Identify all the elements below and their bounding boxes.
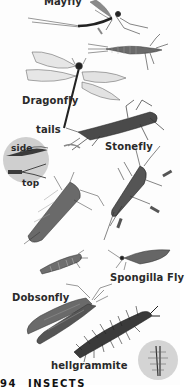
label-top: top [22,178,39,188]
label-tails: tails [36,124,61,135]
spongilla-fly-illustration [108,250,170,270]
label-spongilla-fly: Spongilla Fly [110,272,184,283]
page-number: 94 [0,378,17,389]
label-side: side [11,143,32,153]
label-mayfly: Mayfly [44,0,82,7]
spongilla-larva-illustration [40,250,88,274]
label-hellgrammite: hellgrammite [51,360,128,371]
label-stonefly: Stonefly [105,141,153,152]
label-dobsonfly: Dobsonfly [12,292,69,303]
page-heading: INSECTS [28,378,86,389]
mayfly-nymph-illustration [88,34,168,70]
page-footer: 94 INSECTS [0,378,86,389]
label-dragonfly: Dragonfly [22,95,78,106]
gill-inset [138,340,178,380]
dragonfly-illustration [26,52,126,128]
stonefly-nymph-illustration [104,146,172,240]
